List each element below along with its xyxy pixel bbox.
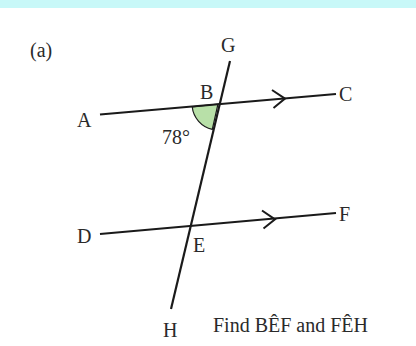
parallel-lines-diagram: (a) G B C A 78° D E F H Find BÊF and FÊH (0, 0, 416, 346)
point-label-d: D (77, 225, 91, 247)
point-label-g: G (221, 34, 235, 56)
point-label-h: H (163, 319, 177, 341)
line-df (100, 213, 336, 234)
point-label-f: F (339, 203, 350, 225)
point-label-e: E (193, 234, 205, 256)
point-label-b: B (200, 81, 213, 103)
point-label-a: A (77, 109, 92, 131)
point-label-c: C (339, 83, 352, 105)
angle-label: 78° (162, 126, 190, 148)
diagram-page: (a) G B C A 78° D E F H Find BÊF and FÊH (0, 0, 416, 346)
part-label: (a) (30, 39, 52, 62)
question-text: Find BÊF and FÊH (213, 314, 368, 336)
